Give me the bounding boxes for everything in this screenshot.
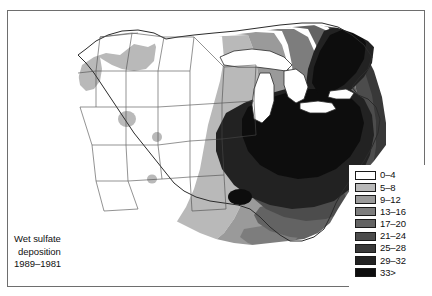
legend-item: 25–28: [355, 242, 427, 254]
legend-swatch-21-24: [355, 232, 376, 241]
legend-item: 29–32: [355, 254, 427, 266]
lake-erie: [300, 101, 336, 113]
legend-swatch-29-32: [355, 256, 376, 265]
legend: 0–4 5–8 9–12 13–16 17–20 21–24 25–28 29: [355, 169, 427, 287]
legend-label-29-32: 29–32: [380, 256, 406, 266]
legend-swatch-5-8: [355, 183, 376, 192]
legend-label-5-8: 5–8: [380, 183, 396, 193]
legend-label-25-28: 25–28: [380, 243, 406, 253]
legend-label-17-20: 17–20: [380, 219, 406, 229]
legend-label-21-24: 21–24: [380, 231, 406, 241]
figure-wet-sulfate-deposition-map: 0–4 5–8 9–12 13–16 17–20 21–24 25–28 29: [0, 0, 432, 296]
legend-item: 9–12: [355, 193, 427, 205]
legend-swatch-33-plus: [355, 268, 376, 277]
band-5-8-spot-colorado: [152, 132, 162, 142]
legend-item: 33>: [355, 267, 427, 279]
band-5-8-spot-newmexico: [147, 175, 157, 184]
legend-label-33-plus: 33>: [380, 268, 396, 278]
legend-swatch-25-28: [355, 244, 376, 253]
legend-item: 21–24: [355, 230, 427, 242]
legend-item: 5–8: [355, 181, 427, 193]
legend-swatch-0-4: [355, 171, 376, 180]
legend-item: 17–20: [355, 218, 427, 230]
legend-item: 13–16: [355, 206, 427, 218]
legend-swatch-13-16: [355, 207, 376, 216]
caption-line-1: Wet sulfate: [14, 233, 114, 246]
legend-label-13-16: 13–16: [380, 207, 406, 217]
caption-line-3: 1989–1981: [14, 258, 114, 271]
caption-line-2: deposition: [14, 246, 114, 259]
legend-swatch-17-20: [355, 219, 376, 228]
legend-label-9-12: 9–12: [380, 195, 401, 205]
legend-swatch-9-12: [355, 195, 376, 204]
legend-label-0-4: 0–4: [380, 170, 396, 180]
map-caption: Wet sulfate deposition 1989–1981: [14, 233, 114, 271]
band-33-plus-spot-arkansas: [228, 189, 252, 205]
legend-item: 0–4: [355, 169, 427, 181]
